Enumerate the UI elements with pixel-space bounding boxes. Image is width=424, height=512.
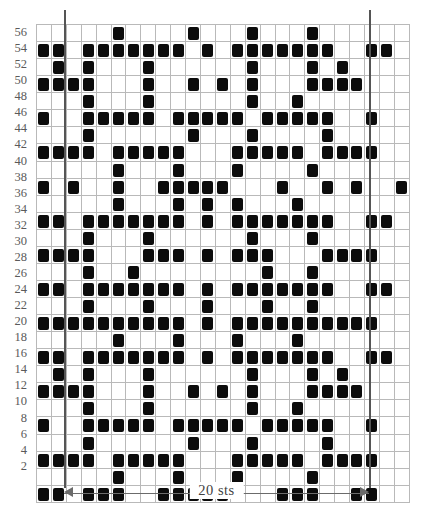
- chart-cell-empty[interactable]: [379, 246, 394, 263]
- chart-cell-empty[interactable]: [66, 280, 81, 297]
- chart-cell-empty[interactable]: [305, 434, 320, 451]
- chart-cell-filled[interactable]: [200, 178, 215, 195]
- chart-cell-empty[interactable]: [379, 127, 394, 144]
- chart-cell-empty[interactable]: [379, 93, 394, 110]
- chart-cell-empty[interactable]: [335, 178, 350, 195]
- chart-cell-filled[interactable]: [230, 195, 245, 212]
- chart-cell-empty[interactable]: [379, 178, 394, 195]
- chart-cell-filled[interactable]: [305, 349, 320, 366]
- chart-cell-empty[interactable]: [364, 178, 379, 195]
- chart-cell-empty[interactable]: [245, 417, 260, 434]
- chart-cell-empty[interactable]: [364, 400, 379, 417]
- chart-cell-filled[interactable]: [111, 144, 126, 161]
- chart-cell-filled[interactable]: [320, 212, 335, 229]
- chart-cell-filled[interactable]: [379, 349, 394, 366]
- chart-cell-empty[interactable]: [245, 195, 260, 212]
- chart-cell-filled[interactable]: [186, 110, 201, 127]
- chart-cell-filled[interactable]: [186, 25, 201, 42]
- chart-cell-empty[interactable]: [379, 229, 394, 246]
- chart-cell-filled[interactable]: [126, 280, 141, 297]
- chart-cell-filled[interactable]: [320, 451, 335, 468]
- chart-cell-empty[interactable]: [350, 195, 365, 212]
- chart-cell-empty[interactable]: [141, 25, 156, 42]
- chart-cell-empty[interactable]: [230, 59, 245, 76]
- chart-cell-filled[interactable]: [81, 298, 96, 315]
- chart-cell-filled[interactable]: [81, 366, 96, 383]
- chart-cell-empty[interactable]: [379, 315, 394, 332]
- chart-cell-empty[interactable]: [37, 366, 52, 383]
- chart-cell-filled[interactable]: [141, 417, 156, 434]
- chart-cell-empty[interactable]: [96, 178, 111, 195]
- chart-cell-filled[interactable]: [215, 110, 230, 127]
- chart-cell-empty[interactable]: [230, 366, 245, 383]
- chart-cell-empty[interactable]: [260, 383, 275, 400]
- chart-cell-filled[interactable]: [364, 212, 379, 229]
- chart-cell-empty[interactable]: [260, 76, 275, 93]
- chart-cell-filled[interactable]: [111, 349, 126, 366]
- chart-cell-empty[interactable]: [200, 434, 215, 451]
- chart-cell-filled[interactable]: [245, 229, 260, 246]
- chart-cell-filled[interactable]: [66, 451, 81, 468]
- chart-cell-filled[interactable]: [81, 144, 96, 161]
- chart-cell-filled[interactable]: [245, 349, 260, 366]
- chart-cell-empty[interactable]: [394, 76, 409, 93]
- chart-cell-empty[interactable]: [350, 42, 365, 59]
- chart-cell-empty[interactable]: [81, 178, 96, 195]
- chart-cell-empty[interactable]: [215, 229, 230, 246]
- chart-cell-filled[interactable]: [290, 400, 305, 417]
- chart-cell-empty[interactable]: [245, 161, 260, 178]
- chart-cell-filled[interactable]: [37, 383, 52, 400]
- chart-cell-empty[interactable]: [186, 298, 201, 315]
- chart-cell-empty[interactable]: [37, 25, 52, 42]
- chart-cell-filled[interactable]: [141, 229, 156, 246]
- chart-cell-filled[interactable]: [200, 246, 215, 263]
- chart-cell-empty[interactable]: [215, 349, 230, 366]
- chart-cell-empty[interactable]: [379, 59, 394, 76]
- chart-cell-empty[interactable]: [364, 195, 379, 212]
- chart-cell-empty[interactable]: [335, 298, 350, 315]
- chart-cell-empty[interactable]: [394, 246, 409, 263]
- chart-cell-empty[interactable]: [96, 332, 111, 349]
- chart-cell-filled[interactable]: [275, 144, 290, 161]
- chart-cell-empty[interactable]: [141, 161, 156, 178]
- chart-cell-filled[interactable]: [305, 25, 320, 42]
- chart-cell-empty[interactable]: [275, 400, 290, 417]
- chart-cell-empty[interactable]: [290, 263, 305, 280]
- chart-cell-filled[interactable]: [275, 417, 290, 434]
- chart-cell-empty[interactable]: [37, 127, 52, 144]
- chart-cell-filled[interactable]: [364, 417, 379, 434]
- chart-cell-filled[interactable]: [96, 212, 111, 229]
- chart-cell-empty[interactable]: [290, 383, 305, 400]
- chart-cell-filled[interactable]: [126, 315, 141, 332]
- chart-cell-filled[interactable]: [215, 178, 230, 195]
- chart-cell-filled[interactable]: [230, 110, 245, 127]
- chart-cell-empty[interactable]: [171, 127, 186, 144]
- chart-cell-filled[interactable]: [350, 383, 365, 400]
- chart-cell-filled[interactable]: [320, 42, 335, 59]
- chart-cell-filled[interactable]: [141, 59, 156, 76]
- chart-cell-filled[interactable]: [305, 366, 320, 383]
- chart-cell-filled[interactable]: [111, 332, 126, 349]
- chart-cell-filled[interactable]: [96, 417, 111, 434]
- chart-cell-filled[interactable]: [350, 451, 365, 468]
- chart-cell-empty[interactable]: [230, 229, 245, 246]
- chart-cell-empty[interactable]: [171, 434, 186, 451]
- chart-cell-filled[interactable]: [37, 76, 52, 93]
- chart-cell-empty[interactable]: [364, 263, 379, 280]
- chart-cell-empty[interactable]: [200, 161, 215, 178]
- chart-cell-filled[interactable]: [156, 42, 171, 59]
- chart-cell-empty[interactable]: [215, 280, 230, 297]
- chart-cell-empty[interactable]: [66, 110, 81, 127]
- chart-cell-empty[interactable]: [335, 42, 350, 59]
- chart-cell-filled[interactable]: [171, 280, 186, 297]
- chart-cell-filled[interactable]: [81, 246, 96, 263]
- chart-cell-empty[interactable]: [37, 93, 52, 110]
- chart-cell-empty[interactable]: [320, 263, 335, 280]
- chart-cell-empty[interactable]: [186, 280, 201, 297]
- chart-cell-filled[interactable]: [275, 349, 290, 366]
- chart-cell-empty[interactable]: [379, 451, 394, 468]
- chart-cell-empty[interactable]: [245, 110, 260, 127]
- chart-cell-empty[interactable]: [111, 59, 126, 76]
- chart-cell-filled[interactable]: [350, 246, 365, 263]
- chart-cell-empty[interactable]: [350, 366, 365, 383]
